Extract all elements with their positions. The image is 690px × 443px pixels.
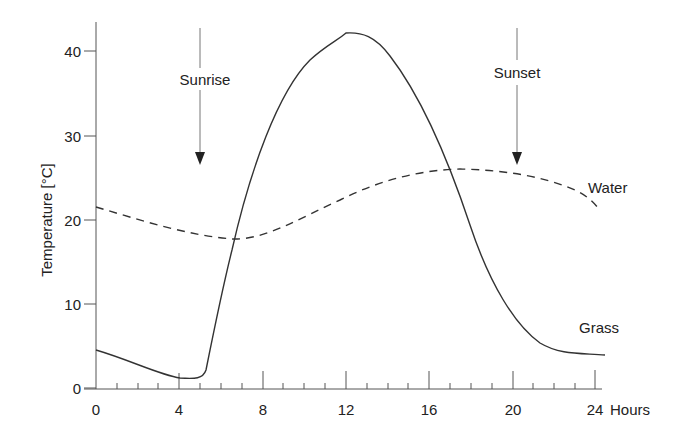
x-axis-unit: Hours <box>610 401 650 418</box>
y-axis-label: Temperature [°C] <box>38 163 55 277</box>
svg-text:20: 20 <box>64 212 81 229</box>
water-series-label: Water <box>588 179 627 196</box>
grass-line <box>96 33 605 379</box>
sunset-annotation: Sunset <box>494 28 542 165</box>
y-ticks <box>84 51 96 388</box>
svg-text:0: 0 <box>73 380 81 397</box>
y-tick-labels: 0 10 20 30 40 <box>64 43 81 397</box>
down-arrow-icon <box>512 152 522 165</box>
down-arrow-icon <box>195 152 205 165</box>
svg-text:30: 30 <box>64 128 81 145</box>
svg-text:Sunrise: Sunrise <box>180 71 231 88</box>
svg-text:10: 10 <box>64 296 81 313</box>
svg-text:20: 20 <box>505 401 522 418</box>
svg-text:0: 0 <box>92 401 100 418</box>
x-tick-labels: 0 4 8 12 16 20 24 <box>92 401 604 418</box>
temperature-chart: 0 10 20 30 40 0 4 8 12 16 20 24 Hours Te… <box>0 0 690 443</box>
svg-text:16: 16 <box>421 401 438 418</box>
svg-text:8: 8 <box>259 401 267 418</box>
svg-text:12: 12 <box>338 401 355 418</box>
svg-text:24: 24 <box>587 401 604 418</box>
svg-text:4: 4 <box>175 401 183 418</box>
svg-text:Sunset: Sunset <box>494 64 542 81</box>
sunrise-annotation: Sunrise <box>180 28 231 165</box>
grass-series-label: Grass <box>579 319 619 336</box>
x-ticks <box>117 370 595 389</box>
svg-text:40: 40 <box>64 43 81 60</box>
water-line <box>96 169 598 239</box>
